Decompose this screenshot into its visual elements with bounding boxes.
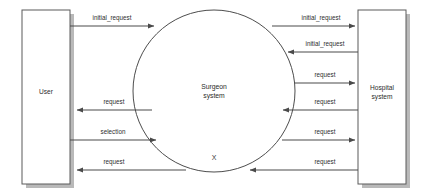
flow-right-request-out-2[interactable]: request (282, 128, 355, 140)
data-flow-diagram: User Hospital system Surgeon system X in… (0, 0, 426, 196)
flow-right-initial-request-in-label: initial_request (306, 40, 345, 48)
flow-right-initial-request-in[interactable]: initial_request (288, 40, 358, 52)
flow-right-request-out-2-label: request (314, 128, 335, 136)
flow-left-request-down-label: request (103, 158, 124, 166)
flow-left-request-up-label: request (103, 98, 124, 106)
flow-right-request-out-1[interactable]: request (294, 71, 355, 83)
hospital-system-label-line2: system (372, 93, 393, 101)
surgeon-system-label-line1: Surgeon (201, 83, 227, 91)
flow-right-initial-request-out[interactable]: initial_request (272, 14, 355, 26)
flow-right-request-out-1-label: request (314, 71, 335, 79)
process-surgeon-system[interactable]: Surgeon system X (133, 10, 295, 172)
flow-left-initial-request-label: initial_request (93, 14, 132, 22)
external-entity-hospital-system[interactable]: Hospital system (358, 10, 410, 188)
surgeon-system-circle[interactable] (133, 10, 295, 172)
flow-right-request-in-1-label: request (314, 98, 335, 106)
surgeon-system-label-line2: system (203, 92, 225, 100)
flow-right-request-in-2[interactable]: request (250, 158, 358, 170)
surgeon-system-process-mark: X (212, 154, 217, 161)
user-box[interactable] (22, 10, 70, 184)
user-label: User (39, 88, 54, 95)
diagram-canvas: User Hospital system Surgeon system X in… (0, 0, 426, 196)
flow-left-request-down[interactable]: request (77, 158, 186, 170)
hospital-system-label-line1: Hospital (370, 84, 394, 92)
flow-left-initial-request[interactable]: initial_request (70, 14, 154, 26)
flow-right-request-in-2-label: request (314, 158, 335, 166)
flow-left-selection-label: selection (101, 128, 126, 135)
external-entity-user[interactable]: User (22, 10, 74, 188)
flow-right-initial-request-out-label: initial_request (302, 14, 341, 22)
